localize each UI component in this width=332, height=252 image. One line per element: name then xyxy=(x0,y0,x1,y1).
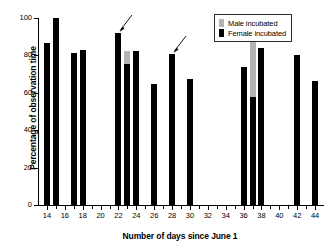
x-axis-tick xyxy=(154,206,155,210)
bar-segment-female xyxy=(187,79,193,205)
x-axis-minor-tick xyxy=(145,206,146,209)
bar-segment-female xyxy=(133,51,139,205)
legend-item: Male incubated xyxy=(219,18,286,28)
y-axis-tick-label: 0 xyxy=(8,200,32,209)
bar-day-28 xyxy=(169,54,175,205)
y-axis-tick xyxy=(34,130,38,131)
x-axis-tick xyxy=(118,206,119,210)
bar-segment-female xyxy=(53,18,59,205)
bar-day-26 xyxy=(151,84,157,205)
x-axis-tick xyxy=(244,206,245,210)
y-axis-tick xyxy=(34,55,38,56)
x-axis-tick xyxy=(208,206,209,210)
x-axis-minor-tick xyxy=(217,206,218,209)
bar-segment-female xyxy=(312,81,318,205)
bar-day-14 xyxy=(44,43,50,205)
bar-segment-female xyxy=(258,48,264,205)
y-axis-tick xyxy=(34,168,38,169)
legend-swatch-icon xyxy=(219,29,224,37)
x-axis-tick xyxy=(279,206,280,210)
y-axis-tick-label: 20 xyxy=(8,163,32,172)
bar-day-15 xyxy=(53,18,59,205)
x-axis-tick xyxy=(190,206,191,210)
x-axis-minor-tick xyxy=(163,206,164,209)
bar-segment-female xyxy=(71,53,77,205)
x-axis-tick xyxy=(47,206,48,210)
bar-segment-female xyxy=(169,54,175,205)
bar-day-23 xyxy=(124,51,130,205)
bar-segment-female xyxy=(115,33,121,205)
bar-segment-female xyxy=(294,55,300,205)
bar-segment-male xyxy=(250,40,256,96)
y-axis-tick-label: 40 xyxy=(8,125,32,134)
x-axis-tick xyxy=(83,206,84,210)
bar-segment-female xyxy=(80,50,86,205)
bar-day-24 xyxy=(133,51,139,205)
bar-day-42 xyxy=(294,55,300,205)
y-axis-tick-label: 80 xyxy=(8,50,32,59)
bar-day-38 xyxy=(258,48,264,205)
legend-item-label: Female incubated xyxy=(228,29,286,38)
y-axis-tick xyxy=(34,18,38,19)
y-axis-tick xyxy=(34,93,38,94)
x-axis-tick-label: 44 xyxy=(305,211,325,220)
x-axis-minor-tick xyxy=(181,206,182,209)
bar-day-18 xyxy=(80,50,86,205)
legend-swatch-icon xyxy=(219,19,224,27)
legend-item: Female incubated xyxy=(219,28,286,38)
arrow-to-day-22-icon xyxy=(117,13,143,35)
x-axis-tick xyxy=(136,206,137,210)
x-axis-minor-tick xyxy=(235,206,236,209)
y-axis-tick xyxy=(34,205,38,206)
bar-day-44 xyxy=(312,81,318,205)
y-axis-tick-label: 60 xyxy=(8,88,32,97)
x-axis-minor-tick xyxy=(74,206,75,209)
bar-day-22 xyxy=(115,33,121,205)
bar-day-36 xyxy=(241,67,247,205)
chart-legend: Male incubatedFemale incubated xyxy=(214,14,292,42)
x-axis-minor-tick xyxy=(306,206,307,209)
x-axis-tick xyxy=(261,206,262,210)
bar-day-17 xyxy=(71,53,77,205)
bar-segment-female xyxy=(151,84,157,205)
x-axis-tick xyxy=(65,206,66,210)
bar-segment-female xyxy=(250,97,256,205)
x-axis-tick xyxy=(315,206,316,210)
x-axis-tick xyxy=(226,206,227,210)
y-axis-line xyxy=(38,18,39,206)
x-axis-minor-tick xyxy=(199,206,200,209)
x-axis-minor-tick xyxy=(288,206,289,209)
x-axis-minor-tick xyxy=(92,206,93,209)
x-axis-title: Number of days since June 1 xyxy=(36,231,324,241)
x-axis-minor-tick xyxy=(270,206,271,209)
x-axis-tick xyxy=(101,206,102,210)
x-axis-tick xyxy=(172,206,173,210)
legend-item-label: Male incubated xyxy=(228,19,277,28)
plot-area: 020406080100 141618202224262830323436384… xyxy=(38,18,324,206)
bar-segment-female xyxy=(241,67,247,205)
bar-segment-female xyxy=(44,43,50,205)
x-axis-minor-tick xyxy=(127,206,128,209)
bar-segment-male xyxy=(124,51,130,64)
x-axis-minor-tick xyxy=(253,206,254,209)
x-axis-minor-tick xyxy=(56,206,57,209)
bar-day-30 xyxy=(187,79,193,205)
arrow-to-day-28-icon xyxy=(171,34,197,56)
x-axis-minor-tick xyxy=(110,206,111,209)
bar-segment-female xyxy=(124,64,130,205)
chart-figure: Percentage of observation time Number of… xyxy=(0,0,332,252)
x-axis-tick xyxy=(297,206,298,210)
y-axis-tick-label: 100 xyxy=(8,13,32,22)
bar-day-37 xyxy=(250,40,256,205)
